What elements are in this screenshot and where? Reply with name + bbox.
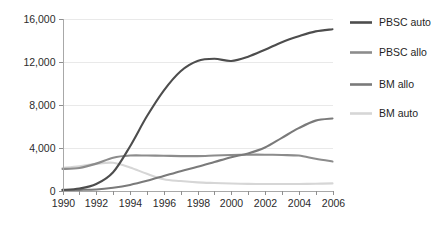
caption-strip xyxy=(0,221,436,229)
chart-legend: PBSC autoPBSC alloBM alloBM auto xyxy=(350,16,431,119)
legend-item-pbsc-auto: PBSC auto xyxy=(350,16,431,28)
legend-label-bm-allo: BM allo xyxy=(379,78,414,90)
y-axis-tick-label: 4,000 xyxy=(29,142,55,154)
series-group xyxy=(63,29,333,190)
y-axis-tick-label: 16,000 xyxy=(23,13,55,25)
axes-group: 04,0008,00012,00016,00019901992199419961… xyxy=(23,13,345,208)
x-axis-tick-label: 1994 xyxy=(119,197,143,209)
line-chart-figure: 04,0008,00012,00016,00019901992199419961… xyxy=(0,0,436,229)
gridlines-group xyxy=(63,20,333,192)
x-axis-tick-label: 1990 xyxy=(52,197,76,209)
x-axis-tick-label: 1996 xyxy=(153,197,177,209)
x-axis-tick-label: 2004 xyxy=(288,197,312,209)
y-axis-tick-label: 12,000 xyxy=(23,56,55,68)
legend-label-bm-auto: BM auto xyxy=(379,107,418,119)
legend-label-pbsc-auto: PBSC auto xyxy=(379,16,431,28)
legend-item-bm-auto: BM auto xyxy=(350,107,418,119)
y-axis-tick-label: 8,000 xyxy=(29,99,55,111)
legend-item-pbsc-allo: PBSC allo xyxy=(350,46,427,58)
series-line-pbsc-auto xyxy=(63,29,333,190)
x-axis-tick-label: 2002 xyxy=(254,197,278,209)
x-axis-tick-label: 1998 xyxy=(187,197,211,209)
chart-canvas: 04,0008,00012,00016,00019901992199419961… xyxy=(0,0,436,229)
y-axis-tick-label: 0 xyxy=(50,185,56,197)
legend-label-pbsc-allo: PBSC allo xyxy=(379,46,427,58)
x-axis-tick-label: 2006 xyxy=(322,197,346,209)
legend-item-bm-allo: BM allo xyxy=(350,78,414,90)
x-axis-tick-label: 1992 xyxy=(85,197,109,209)
x-axis-tick-label: 2000 xyxy=(220,197,244,209)
